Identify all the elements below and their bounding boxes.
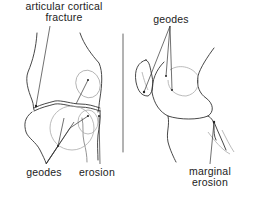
left-lower-geode-outline [50,106,94,150]
right-geode-outline [168,67,199,96]
label-erosion: erosion [77,167,117,178]
label-line-2: fracture [4,12,124,23]
leader-fracture [36,26,50,106]
label-marginal-erosion: marginal erosion [180,166,240,188]
left-lower-bone-outline [25,112,46,163]
leader-geode-upper [76,80,88,104]
label-articular-cortical-fracture: articular cortical fracture [4,1,124,23]
leader-marginal-erosion [210,122,214,164]
label-geodes-right: geodes [146,14,196,25]
label-line-2: erosion [180,177,240,188]
left-upper-bone-outline [27,33,37,110]
left-upper-geode-outline [72,67,104,102]
right-bone-outline [152,48,214,119]
label-geodes-left: geodes [20,167,68,178]
right-sesamoid-outline [135,60,152,96]
joint-pathology-diagram: articular cortical fracture geodes erosi… [0,0,256,198]
leader-geodes-right-1 [166,26,170,76]
